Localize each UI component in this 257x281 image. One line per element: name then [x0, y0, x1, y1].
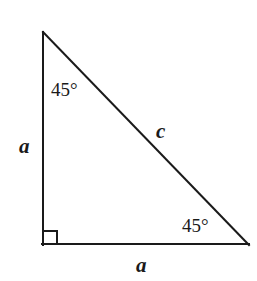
side-label-left: a: [19, 136, 30, 157]
side-label-bottom: a: [136, 255, 147, 276]
triangle-side-hypotenuse: [43, 32, 249, 245]
triangle-figure: 45° 45° a a c: [0, 0, 257, 281]
angle-label-top: 45°: [51, 80, 78, 99]
right-angle-marker-icon: [43, 231, 57, 244]
triangle-drawing: [0, 0, 257, 281]
side-label-hypotenuse: c: [156, 121, 165, 142]
angle-label-bottom-right: 45°: [182, 216, 209, 235]
